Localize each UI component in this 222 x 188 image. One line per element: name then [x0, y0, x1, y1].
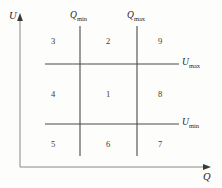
q-min-label: Qmin: [70, 11, 87, 21]
zone-label-2: 2: [101, 37, 115, 46]
q-min-label-sub: min: [77, 15, 87, 22]
zone-label-7: 7: [153, 140, 167, 149]
u-min-label: Umin: [182, 118, 199, 128]
y-axis-arrowhead: [17, 13, 23, 21]
qu-zone-diagram: U Q Qmin Qmax Umax Umin 3 2 9 4 1 8 5 6 …: [0, 0, 222, 188]
x-axis-arrowhead: [203, 164, 211, 170]
zone-label-5: 5: [46, 140, 60, 149]
u-max-label: Umax: [182, 58, 200, 68]
u-max-label-base: U: [182, 57, 189, 67]
zone-label-6: 6: [101, 140, 115, 149]
zone-label-3: 3: [46, 37, 60, 46]
q-max-label: Qmax: [127, 11, 145, 21]
zone-label-8: 8: [153, 90, 167, 99]
u-max-label-sub: max: [189, 62, 200, 69]
zone-label-1: 1: [101, 90, 115, 99]
zone-label-4: 4: [46, 90, 60, 99]
x-axis-label: Q: [203, 172, 211, 183]
zone-label-9: 9: [153, 37, 167, 46]
u-min-label-base: U: [182, 117, 189, 127]
q-max-label-base: Q: [127, 10, 134, 20]
q-min-label-base: Q: [70, 10, 77, 20]
u-min-label-sub: min: [189, 122, 199, 129]
q-max-label-sub: max: [134, 15, 145, 22]
y-axis-label: U: [9, 11, 17, 22]
